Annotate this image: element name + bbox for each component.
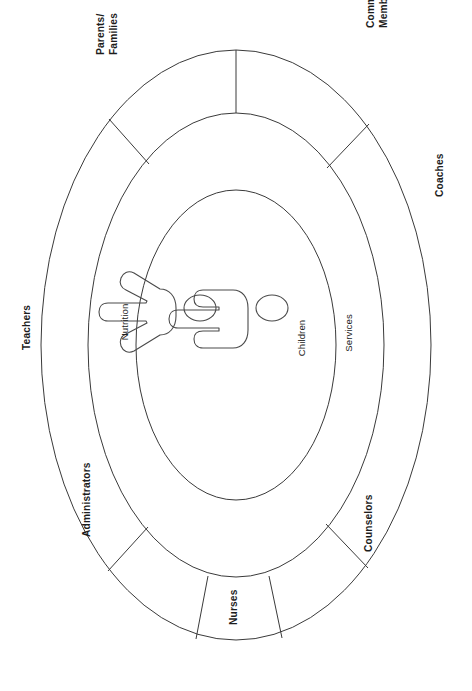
divider-bottom-left xyxy=(196,576,208,639)
label-teachers-text: Teachers xyxy=(21,305,32,350)
label-community-members-line1: Community xyxy=(365,0,376,28)
person-a-head xyxy=(256,295,288,321)
label-community-members-line2: Members xyxy=(378,0,389,28)
person-icon-b xyxy=(99,272,216,352)
concentric-ring-diagram: Children Nutrition Services Parents/ Fam… xyxy=(0,0,472,691)
label-parents-families-line2: Families xyxy=(108,13,119,55)
diagram-canvas: Children Nutrition Services Parents/ Fam… xyxy=(0,0,472,691)
label-children: Children xyxy=(296,320,307,357)
label-nurses-text: Nurses xyxy=(228,589,239,625)
middle-ellipse xyxy=(88,113,384,577)
label-coaches-text: Coaches xyxy=(434,153,445,197)
divider-lower-right xyxy=(326,524,368,568)
label-services-text: Services xyxy=(343,314,354,352)
label-counselors: Counselors xyxy=(363,494,374,552)
person-b-head xyxy=(184,295,216,321)
label-children-text: Children xyxy=(296,320,307,357)
divider-upper-right xyxy=(327,124,369,168)
divider-upper-left xyxy=(109,119,149,164)
person-icon-a xyxy=(169,290,288,348)
label-parents-families: Parents/ Families xyxy=(95,13,119,55)
label-nutrition: Nutrition xyxy=(119,304,130,341)
label-nurses: Nurses xyxy=(228,589,239,625)
label-nutrition-text: Nutrition xyxy=(119,304,130,341)
label-administrators: Administrators xyxy=(81,462,92,537)
label-teachers: Teachers xyxy=(21,305,32,350)
person-b-body xyxy=(99,272,176,352)
label-parents-families-line1: Parents/ xyxy=(95,14,106,55)
divider-lower-left xyxy=(108,527,148,571)
label-counselors-text: Counselors xyxy=(363,494,374,552)
label-services: Services xyxy=(343,314,354,352)
label-administrators-text: Administrators xyxy=(81,462,92,537)
label-coaches: Coaches xyxy=(434,153,445,197)
divider-bottom-right xyxy=(269,576,282,638)
label-community-members: Community Members xyxy=(365,0,389,28)
outer-ring-dividers xyxy=(108,50,369,639)
